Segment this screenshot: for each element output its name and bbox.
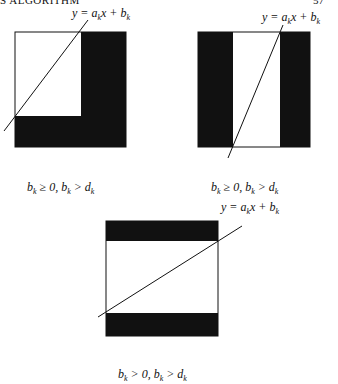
fig-c-line-label: y = akx + bk	[221, 200, 279, 216]
fig-b-caption: bk ≥ 0, bk > dk	[211, 180, 278, 196]
black-top-band	[106, 221, 218, 241]
black-bottom-band	[15, 116, 126, 147]
fig-a-caption: bk ≥ 0, bk > dk	[27, 180, 94, 196]
figure-b	[198, 25, 310, 158]
black-right-column	[280, 32, 310, 147]
figure-a	[4, 20, 126, 147]
fig-b-line-label: y = akx + bk	[262, 10, 320, 26]
black-bottom-band	[106, 313, 218, 336]
fig-c-caption: bk > 0, bk > dk	[118, 367, 187, 383]
fig-a-line-label: y = akx + bk	[72, 6, 130, 22]
figure-c	[98, 221, 242, 336]
black-left-column	[198, 32, 233, 147]
